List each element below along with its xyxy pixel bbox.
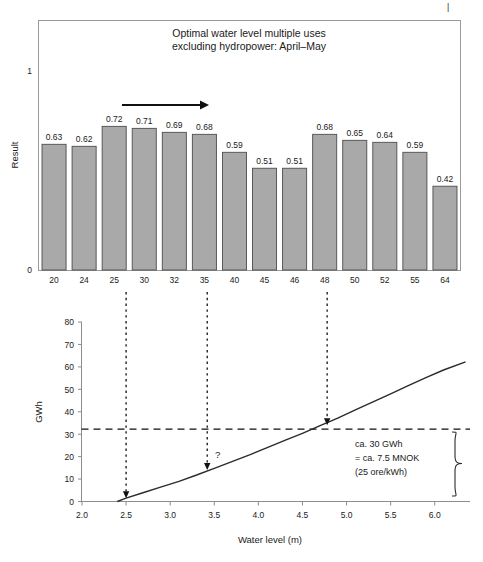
line-x-tick-label: 2.5 [120,510,132,520]
bar-x-tick-label: 24 [79,275,89,285]
bar [403,152,427,270]
bar-chart-title-line2: excluding hydropower: April–May [172,40,327,52]
bar-x-tick-label: 55 [410,275,420,285]
annotation-line1: ca. 30 GWh [355,439,403,449]
bar-x-tick-label: 50 [350,275,360,285]
bar [433,186,457,270]
bar [313,134,337,270]
bar [222,152,246,270]
line-y-tick-label: 50 [65,385,75,395]
line-y-tick-label: 70 [65,340,75,350]
bar-value-label: 0.64 [377,130,394,140]
line-y-tick-label: 40 [65,407,75,417]
bar-value-label: 0.65 [346,128,363,138]
figure-container: | Optimal water level multiple uses excl… [0,0,483,562]
bar-value-label: 0.62 [76,134,93,144]
bar [132,128,156,270]
annotation-line3: (25 ore/kWh) [355,467,407,477]
question-mark-label: ? [215,449,220,460]
bar-value-label: 0.51 [286,156,303,166]
line-x-tick-label: 4.0 [252,510,264,520]
bar [42,144,66,270]
bar-value-label: 0.71 [136,116,153,126]
line-y-tick-label: 30 [65,430,75,440]
line-x-axis-title: Water level (m) [238,534,302,545]
bar-y-tick-0: 0 [27,265,32,275]
bar-value-label: 0.69 [166,120,183,130]
bar-x-tick-label: 30 [140,275,150,285]
bar [72,146,96,270]
bar [343,140,367,270]
annotation-line2: = ca. 7.5 MNOK [355,453,419,463]
page-top-mark: | [447,2,449,12]
bar-x-tick-label: 64 [440,275,450,285]
line-y-tick-label: 60 [65,362,75,372]
line-y-tick-label: 10 [65,474,75,484]
line-x-tick-label: 5.5 [385,510,397,520]
bar-value-label: 0.68 [316,122,333,132]
bar-value-label: 0.59 [407,140,424,150]
bar [162,132,186,270]
bar-chart-title-line1: Optimal water level multiple uses [172,27,325,39]
bar [373,142,397,270]
bar-x-tick-label: 48 [320,275,330,285]
bar-value-label: 0.63 [46,132,63,142]
line-y-tick-label: 80 [65,317,75,327]
bar-x-tick-label: 40 [230,275,240,285]
line-y-tick-label: 20 [65,452,75,462]
line-y-ticks-group: 01020304050607080 [65,317,82,507]
line-x-tick-label: 6.0 [429,510,441,520]
line-x-tick-label: 5.0 [341,510,353,520]
drop-arrow-25 [123,292,129,498]
bar-x-tick-label: 52 [380,275,390,285]
bar-x-tick-label: 25 [109,275,119,285]
drop-arrow-48 [324,292,330,425]
bar-value-label: 0.72 [106,114,123,124]
gwh-curve [117,362,465,502]
bar-y-axis-title: Result [9,141,20,168]
line-x-tick-label: 2.0 [76,510,88,520]
bar [283,168,307,270]
drop-arrow-head [204,463,210,470]
bar-x-tick-label: 32 [170,275,180,285]
line-chart: 01020304050607080 2.02.53.03.54.04.55.05… [0,290,483,562]
drop-arrow-mid [204,292,210,470]
annotation-brace [452,432,462,496]
bar-x-tick-label: 35 [200,275,210,285]
line-y-axis-title: GWh [33,401,44,423]
line-x-tick-label: 3.5 [208,510,220,520]
line-x-tick-label: 3.0 [164,510,176,520]
bar-value-label: 0.51 [256,156,273,166]
bar [102,126,126,270]
bar-value-label: 0.68 [196,122,213,132]
line-x-ticks-group: 2.02.53.03.54.04.55.05.56.0 [76,502,441,520]
bar-y-tick-1: 1 [27,66,32,76]
bar-x-tick-labels-group: 2024253032354045464850525564 [49,275,450,285]
bar-value-label: 0.42 [437,174,454,184]
bar-value-label: 0.59 [226,140,243,150]
bar-x-tick-label: 20 [49,275,59,285]
bar-x-tick-label: 46 [290,275,300,285]
bar [253,168,277,270]
line-y-tick-label: 0 [69,497,74,507]
drop-arrows-group [123,292,330,498]
bar [192,134,216,270]
line-x-tick-label: 4.5 [297,510,309,520]
bar-x-tick-label: 45 [260,275,270,285]
bar-chart: | Optimal water level multiple uses excl… [0,0,483,292]
